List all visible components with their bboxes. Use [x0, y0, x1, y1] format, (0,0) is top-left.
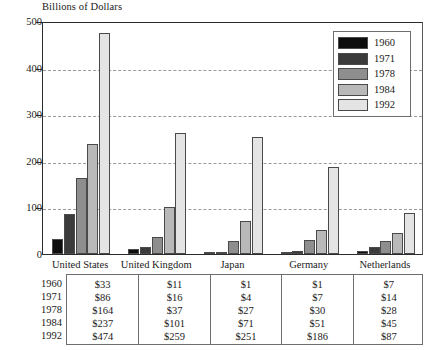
bar-united-kingdom-1960 — [128, 249, 139, 254]
table-column-united-kingdom: $11$16$37$101$259 — [138, 275, 209, 344]
bar-united-states-1971 — [64, 214, 75, 254]
bar-netherlands-1960 — [357, 251, 368, 254]
legend-swatch-1984 — [338, 84, 368, 96]
table-cell: $474 — [67, 330, 138, 343]
table-cell: $27 — [211, 304, 281, 317]
table-cell: $37 — [139, 304, 209, 317]
bar-united-states-1978 — [76, 178, 87, 254]
legend-label-1984: 1984 — [374, 84, 395, 96]
legend-swatch-1992 — [338, 99, 368, 111]
bar-japan-1971 — [216, 252, 227, 254]
bar-germany-1984 — [316, 230, 327, 254]
table-cell: $1 — [282, 278, 352, 291]
table-cell: $51 — [282, 317, 352, 330]
table-cell: $164 — [67, 304, 138, 317]
table-cell: $87 — [354, 330, 424, 343]
table-cell: $1 — [211, 278, 281, 291]
chart-title: Billions of Dollars — [42, 1, 122, 13]
legend-label-1971: 1971 — [374, 53, 395, 65]
table-row-label-1992: 1992 — [31, 329, 62, 342]
bar-united-kingdom-1992 — [175, 133, 186, 254]
category-label-united-kingdom: United Kingdom — [118, 256, 194, 273]
bar-united-kingdom-1978 — [152, 237, 163, 254]
chart-figure: Billions of Dollars 0100200300400500 196… — [0, 0, 431, 350]
table-cell: $86 — [67, 291, 138, 304]
bar-united-states-1992 — [99, 33, 110, 254]
legend-item-1992: 1992 — [338, 98, 407, 112]
bar-netherlands-1971 — [369, 247, 380, 254]
bar-united-kingdom-1984 — [164, 207, 175, 254]
bar-netherlands-1978 — [380, 241, 391, 254]
bar-united-states-1960 — [52, 239, 63, 254]
category-label-germany: Germany — [271, 256, 347, 273]
y-axis: 0100200300400500 — [0, 22, 42, 255]
table-row-label-1960: 1960 — [31, 277, 62, 290]
table-cell: $237 — [67, 317, 138, 330]
category-label-united-states: United States — [42, 256, 118, 273]
bar-japan-1960 — [204, 252, 215, 254]
table-row-labels: 19601971197819841992 — [31, 274, 62, 345]
table-cell: $7 — [354, 278, 424, 291]
legend-item-1984: 1984 — [338, 83, 407, 97]
bar-germany-1960 — [281, 252, 292, 254]
legend-item-1978: 1978 — [338, 67, 407, 81]
table-cell: $186 — [282, 330, 352, 343]
table-column-netherlands: $7$14$28$45$87 — [353, 275, 424, 344]
legend-swatch-1960 — [338, 37, 368, 49]
table-row-label-1978: 1978 — [31, 303, 62, 316]
table-cell: $28 — [354, 304, 424, 317]
y-tick-label-0: 0 — [8, 250, 42, 260]
table-row-label-1971: 1971 — [31, 290, 62, 303]
table-cell: $4 — [211, 291, 281, 304]
table-cell: $251 — [211, 330, 281, 343]
table-cell: $30 — [282, 304, 352, 317]
data-table: 19601971197819841992 $33$86$164$237$474$… — [31, 274, 423, 345]
bar-united-states-1984 — [87, 144, 98, 254]
legend-item-1971: 1971 — [338, 52, 407, 66]
bar-germany-1978 — [304, 240, 315, 254]
category-label-japan: Japan — [194, 256, 270, 273]
table-cell: $33 — [67, 278, 138, 291]
table-column-united-states: $33$86$164$237$474 — [67, 275, 138, 344]
legend-item-1960: 1960 — [338, 36, 407, 50]
table-cell: $7 — [282, 291, 352, 304]
table-cell: $259 — [139, 330, 209, 343]
bar-germany-1992 — [328, 167, 339, 254]
table-cell: $71 — [211, 317, 281, 330]
legend-label-1960: 1960 — [374, 37, 395, 49]
bar-japan-1992 — [252, 137, 263, 254]
table-cell: $101 — [139, 317, 209, 330]
category-label-netherlands: Netherlands — [347, 256, 423, 273]
bar-netherlands-1984 — [392, 233, 403, 254]
bar-japan-1978 — [228, 241, 239, 254]
category-labels: United StatesUnited KingdomJapanGermanyN… — [42, 256, 423, 273]
table-cell: $11 — [139, 278, 209, 291]
bar-netherlands-1992 — [404, 213, 415, 254]
legend-label-1978: 1978 — [374, 68, 395, 80]
table-cell: $16 — [139, 291, 209, 304]
chart-legend: 19601971197819841992 — [333, 31, 411, 117]
table-cell: $45 — [354, 317, 424, 330]
legend-label-1992: 1992 — [374, 99, 395, 111]
legend-swatch-1978 — [338, 68, 368, 80]
legend-swatch-1971 — [338, 53, 368, 65]
table-grid: $33$86$164$237$474$11$16$37$101$259$1$4$… — [66, 274, 423, 345]
bar-japan-1984 — [240, 221, 251, 254]
table-column-japan: $1$4$27$71$251 — [210, 275, 281, 344]
table-cell: $14 — [354, 291, 424, 304]
table-column-germany: $1$7$30$51$186 — [281, 275, 352, 344]
bar-united-kingdom-1971 — [140, 247, 151, 254]
bar-germany-1971 — [292, 251, 303, 254]
table-row-label-1984: 1984 — [31, 316, 62, 329]
